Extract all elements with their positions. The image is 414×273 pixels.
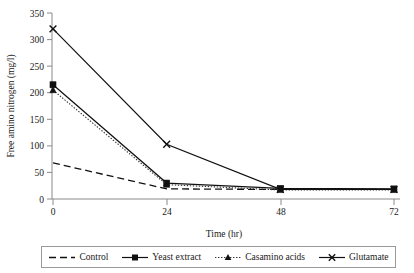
y-tick-label-200: 200 <box>30 88 45 98</box>
legend-label-yeast-extract: Yeast extract <box>152 252 201 262</box>
y-axis-title: Free amino nitrogen (mg/l) <box>6 54 17 157</box>
series-glutamate <box>50 26 398 193</box>
legend-swatch-cross <box>318 252 346 263</box>
series-path <box>53 85 394 189</box>
x-tick-label-24: 24 <box>162 207 172 217</box>
legend-label-casamino-acids: Casamino acids <box>245 252 305 262</box>
series-path <box>53 90 394 190</box>
x-axis-ticks: 0 24 48 72 <box>51 199 399 217</box>
legend-label-glutamate: Glutamate <box>349 252 389 262</box>
legend-item-yeast-extract[interactable]: Yeast extract <box>119 252 203 263</box>
x-tick-label-48: 48 <box>276 207 286 217</box>
x-tick-label-0: 0 <box>51 207 56 217</box>
series-path <box>53 29 394 189</box>
y-axis-ticks: 350 300 250 200 150 100 50 0 <box>30 9 52 205</box>
chart-page: Free amino nitrogen (mg/l) 350 300 250 2… <box>0 0 414 273</box>
legend-swatch-square <box>121 252 149 263</box>
y-tick-label-350: 350 <box>30 9 45 19</box>
legend-label-control: Control <box>79 252 108 262</box>
legend-item-casamino-acids[interactable]: Casamino acids <box>212 252 307 263</box>
legend-item-glutamate[interactable]: Glutamate <box>316 252 391 263</box>
line-chart: Free amino nitrogen (mg/l) 350 300 250 2… <box>0 0 414 273</box>
legend-swatch-dashed <box>48 252 76 263</box>
y-tick-label-100: 100 <box>30 141 45 151</box>
y-tick-label-50: 50 <box>35 168 45 178</box>
series-yeast-extract <box>50 82 397 192</box>
legend-swatch-triangle <box>214 252 242 263</box>
y-tick-label-150: 150 <box>30 115 45 125</box>
x-tick-label-72: 72 <box>389 207 399 217</box>
series-layer <box>50 26 398 193</box>
legend-item-control[interactable]: Control <box>46 252 110 263</box>
series-casamino-acids <box>50 87 397 193</box>
y-tick-label-0: 0 <box>39 195 44 205</box>
y-tick-label-300: 300 <box>30 35 45 45</box>
chart-legend: Control Yeast extract Casamino acids Glu… <box>41 246 396 268</box>
x-axis-title: Time (hr) <box>206 229 242 240</box>
y-tick-label-250: 250 <box>30 62 45 72</box>
